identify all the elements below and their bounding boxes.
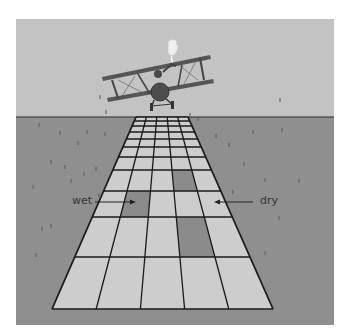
sky [16, 19, 334, 117]
dry-tile [141, 132, 156, 139]
pilot-head [154, 70, 162, 78]
dry-tile [155, 132, 169, 139]
dry-tile [154, 139, 170, 147]
wet-label: wet [72, 194, 92, 207]
dry-tile [142, 126, 156, 132]
dry-tile [156, 121, 168, 126]
dry-tile [153, 147, 170, 157]
dry-tile [145, 217, 180, 257]
dry-tile [144, 121, 156, 126]
dry-tile [168, 121, 180, 126]
dry-tile [156, 126, 169, 132]
wheel-right [171, 101, 174, 109]
dry-tile [150, 170, 173, 191]
dry-tile [148, 191, 176, 217]
runway-diagram [0, 0, 352, 332]
dry-tile [152, 157, 172, 170]
wheel-left [150, 103, 153, 111]
dry-tile [140, 257, 184, 309]
dry-tile [168, 126, 182, 132]
dry-tile [139, 139, 155, 147]
dry-label: dry [260, 194, 278, 207]
engine-cowling [151, 83, 169, 101]
